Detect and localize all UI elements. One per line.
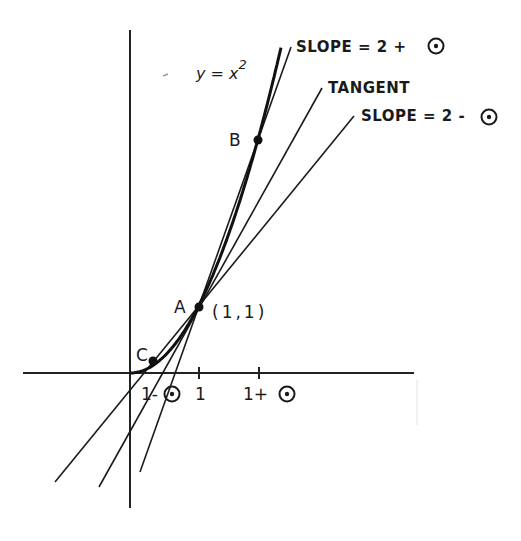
epsilon-icon <box>482 110 497 125</box>
point-c-label: C <box>136 345 148 365</box>
secant-line-ab <box>140 47 291 472</box>
point-b-label: B <box>229 130 241 150</box>
x-tick-label-1-plus: 1+ <box>243 384 268 404</box>
x-tick-label-1: 1 <box>195 384 206 404</box>
secant-ca-label: SLOPE = 2 - <box>361 107 465 125</box>
secant-ab-label: SLOPE = 2 + <box>296 38 407 56</box>
curve-label: y = x2 <box>195 57 247 83</box>
point-a-label: A <box>174 297 186 317</box>
epsilon-icon <box>165 387 180 402</box>
tangent-line <box>99 88 322 487</box>
point-b <box>254 136 263 145</box>
scan-speck <box>163 74 168 76</box>
point-a-coord: (1,1) <box>212 302 267 322</box>
epsilon-icon <box>429 39 444 54</box>
tangent-label: TANGENT <box>328 79 410 97</box>
secant-line-ca <box>55 116 354 482</box>
parabola-curve <box>130 48 281 373</box>
point-a <box>195 303 204 312</box>
tangent-diagram: A (1,1) B C y = x2 SLOPE = 2 + TANGENT S… <box>0 0 521 541</box>
epsilon-icon <box>280 387 295 402</box>
x-tick-label-1-minus: 1- <box>141 384 158 404</box>
point-c <box>149 357 158 366</box>
